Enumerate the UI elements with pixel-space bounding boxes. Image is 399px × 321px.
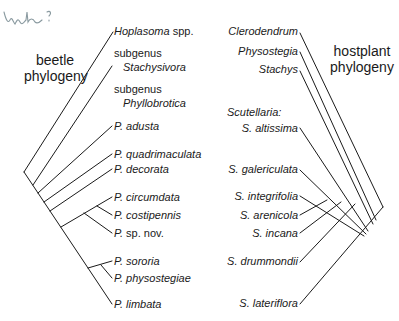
branch-stachys xyxy=(300,71,373,224)
hostplant-title-line1: hostplant xyxy=(326,43,398,59)
beetle-title-line2: phylogeny xyxy=(24,68,86,84)
taxon-p-limbata: P. limbata xyxy=(114,298,162,311)
beetle-phylogeny-title: beetle phylogeny xyxy=(24,52,86,84)
branch-physostegia xyxy=(300,52,376,220)
branch-p-adusta xyxy=(38,126,112,193)
taxon-s-incana: S. incana xyxy=(252,227,298,240)
taxon-p-sororia: P. sororia xyxy=(114,255,160,268)
taxon-name: P. xyxy=(114,227,123,239)
taxon-phyllobrotica-prefix: subgenus xyxy=(114,83,162,96)
branch-s-integrifolia xyxy=(300,196,364,236)
taxon-p-sp-nov: P. sp. nov. xyxy=(114,227,164,240)
taxon-hoplasoma: Hoplasoma spp. xyxy=(114,25,194,38)
taxon-physostegia: Physostegia xyxy=(238,45,298,58)
branch-p-physostegiae xyxy=(101,265,112,278)
taxon-stachysivora: Stachysivora xyxy=(123,61,186,74)
cophylogeny-diagram: beetle phylogeny hostplant phylogeny Hop… xyxy=(0,0,399,321)
taxon-s-altissima: S. altissima xyxy=(242,122,298,135)
taxon-s-galericulata: S. galericulata xyxy=(228,163,298,176)
taxon-p-circumdata: P. circumdata xyxy=(114,191,180,204)
hostplant-title-line2: phylogeny xyxy=(326,59,398,75)
hostplant-phylogeny-title: hostplant phylogeny xyxy=(326,43,398,75)
branch-s-arenicola xyxy=(300,200,327,215)
taxon-p-physostegiae: P. physostegiae xyxy=(114,272,191,285)
taxon-p-costipennis: P. costipennis xyxy=(114,209,181,222)
taxon-suffix: sp. nov. xyxy=(123,227,164,239)
branch-circumdata-clade xyxy=(61,197,112,227)
taxon-s-arenicola: S. arenicola xyxy=(240,209,298,222)
handwritten-scribble xyxy=(4,11,50,24)
taxon-s-lateriflora: S. lateriflora xyxy=(239,297,298,310)
taxon-phyllobrotica: Phyllobrotica xyxy=(123,97,186,110)
taxon-p-decorata: P. decorata xyxy=(114,163,169,176)
taxon-stachysivora-prefix: subgenus xyxy=(114,47,162,60)
taxon-stachys: Stachys xyxy=(259,63,298,76)
taxon-p-adusta: P. adusta xyxy=(114,120,159,133)
taxon-clerodendrum: Clerodendrum xyxy=(228,25,298,38)
taxon-s-integrifolia: S. integrifolia xyxy=(234,190,298,203)
branch-p-costipennis xyxy=(97,206,112,215)
taxon-name: Hoplasoma xyxy=(114,25,170,37)
branch-p-sp-nov xyxy=(84,213,112,233)
branch-sororia-clade xyxy=(88,261,112,268)
beetle-spine xyxy=(24,172,112,304)
taxon-p-quadrimaculata: P. quadrimaculata xyxy=(114,148,201,161)
beetle-title-line1: beetle xyxy=(24,52,86,68)
taxon-suffix: spp. xyxy=(170,25,194,37)
taxon-s-drummondii: S. drummondii xyxy=(227,255,298,268)
taxon-scutellaria-prefix: Scutellaria: xyxy=(227,106,281,119)
